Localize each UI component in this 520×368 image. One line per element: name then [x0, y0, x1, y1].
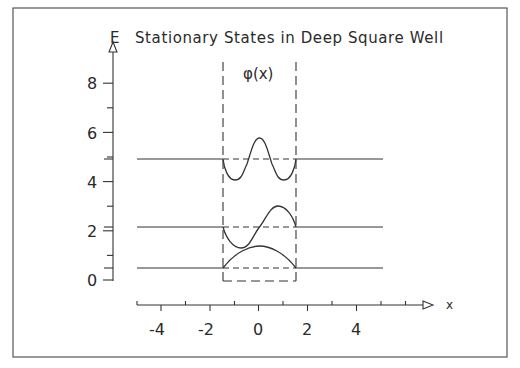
square-well — [223, 62, 296, 281]
y-tick-labels: 0 2 4 6 8 — [87, 74, 97, 290]
x-axis — [137, 301, 433, 311]
energy-levels — [104, 159, 383, 268]
x-axis-label: x — [446, 298, 453, 312]
svg-text:2: 2 — [302, 320, 312, 339]
x-tick-labels: -4 -2 0 2 4 — [149, 320, 361, 339]
svg-text:8: 8 — [87, 74, 97, 93]
svg-text:4: 4 — [351, 320, 361, 339]
wavefunctions — [223, 138, 296, 268]
y-axis-label: E — [110, 29, 119, 47]
y-axis — [103, 42, 117, 281]
svg-text:6: 6 — [87, 124, 97, 143]
chart-title: Stationary States in Deep Square Well — [135, 29, 444, 47]
chart-canvas: E Stationary States in Deep Square Well … — [0, 0, 520, 368]
svg-text:-4: -4 — [149, 320, 165, 339]
svg-text:0: 0 — [87, 271, 97, 290]
curve-label: φ(x) — [243, 65, 273, 83]
svg-text:4: 4 — [87, 173, 97, 192]
psi-1-curve — [223, 246, 296, 268]
svg-text:-2: -2 — [198, 320, 214, 339]
svg-text:2: 2 — [87, 222, 97, 241]
svg-text:0: 0 — [253, 320, 263, 339]
